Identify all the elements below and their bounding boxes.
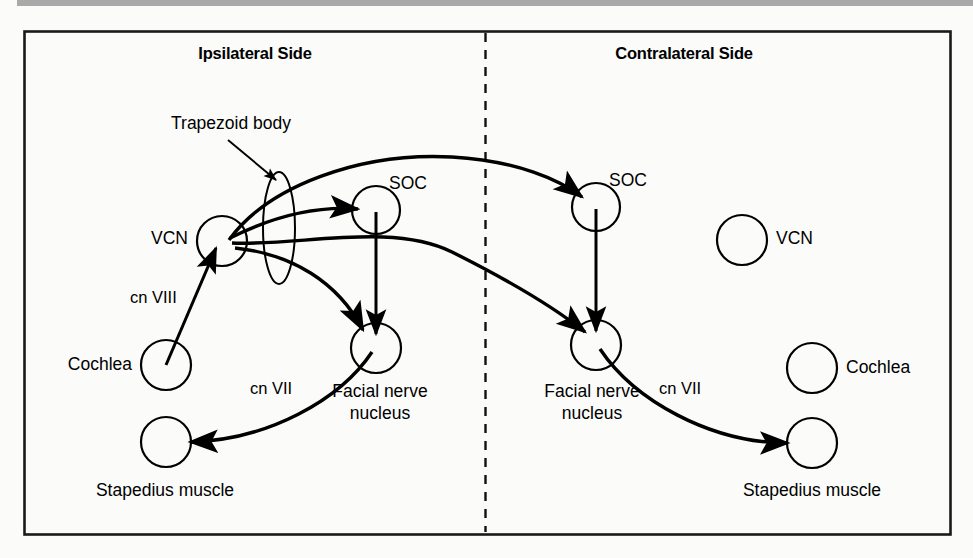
- label-contra-vcn: VCN: [776, 229, 813, 249]
- node-circle-contra-cochlea: [787, 343, 837, 393]
- node-circle-contra-stapedius-muscle: [787, 418, 837, 468]
- node-circle-contra-vcn: [717, 215, 767, 265]
- label-contra-facial-nerve-nucleus-line1: Facial nerve: [544, 382, 639, 402]
- label-ipsi-stapedius-muscle: Stapedius muscle: [96, 481, 234, 501]
- label-cn-vii-ipsi: cn VII: [250, 379, 292, 397]
- label-contra-stapedius-muscle: Stapedius muscle: [743, 481, 881, 501]
- label-cn-viii: cn VIII: [130, 288, 177, 306]
- header-ipsilateral-side: Ipsilateral Side: [198, 44, 311, 62]
- label-ipsi-facial-nerve-nucleus-line2: nucleus: [350, 404, 410, 424]
- pathway-vcn-to-contra-soc: [229, 157, 582, 240]
- node-circle-ipsi-stapedius-muscle: [141, 417, 191, 467]
- label-contra-cochlea: Cochlea: [846, 358, 910, 378]
- pathway-vcn-to-ipsi-facial-nucleus: [235, 248, 363, 330]
- label-contra-facial-nerve-nucleus-line2: nucleus: [562, 404, 622, 424]
- trapezoid-body-leader-line: [228, 140, 276, 180]
- figure-border: [25, 32, 951, 535]
- node-circle-ipsi-vcn: [197, 216, 247, 266]
- label-cn-vii-contra: cn VII: [659, 379, 701, 397]
- figure-page: Ipsilateral Side Contralateral Side Trap…: [0, 0, 973, 558]
- header-contralateral-side: Contralateral Side: [615, 44, 753, 62]
- label-contra-soc: SOC: [609, 171, 647, 191]
- label-ipsi-facial-nerve-nucleus-line1: Facial nerve: [332, 382, 427, 402]
- label-trapezoid-body: Trapezoid body: [171, 114, 291, 134]
- pathway-cn8-cochlea-to-vcn: [166, 248, 216, 365]
- pathway-vcn-to-contra-facial-nucleus: [232, 237, 585, 332]
- label-ipsi-soc: SOC: [389, 174, 427, 194]
- reflex-pathway-svg: [0, 0, 973, 558]
- label-ipsi-vcn: VCN: [151, 229, 188, 249]
- label-ipsi-cochlea: Cochlea: [68, 355, 132, 375]
